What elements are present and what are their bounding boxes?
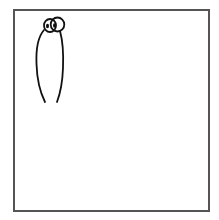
doodle-drawing: [0, 0, 219, 220]
body-left-line: [36, 30, 45, 102]
right-eye: [51, 18, 65, 32]
right-pupil: [53, 23, 56, 27]
drawing-stage: [0, 0, 219, 220]
body-right-line: [57, 31, 63, 102]
left-pupil: [46, 24, 49, 28]
